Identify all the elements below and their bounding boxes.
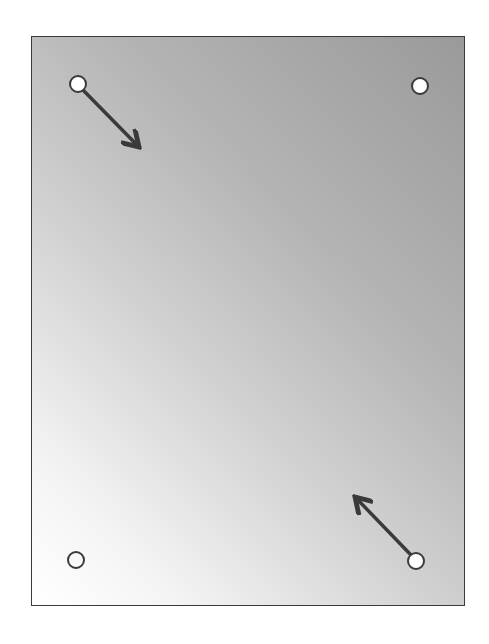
arrows-group [83, 90, 411, 555]
hole-top-left [70, 76, 86, 92]
hole-bottom-left [68, 552, 84, 568]
arrow-bottom-right-icon [357, 499, 411, 555]
holes-group [68, 76, 428, 569]
hole-top-right [412, 78, 428, 94]
diagram-canvas [0, 0, 489, 644]
hole-bottom-right [408, 553, 424, 569]
diagram-overlay [0, 0, 489, 644]
arrow-top-left-icon [83, 90, 137, 145]
